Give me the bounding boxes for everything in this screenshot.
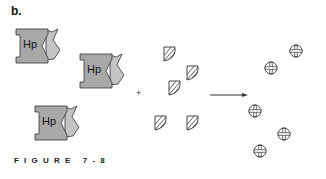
figure-panel: b. HpHpHp + FIGURE 7-8 [0,0,326,179]
product-icon [253,144,267,158]
product-icon [289,44,303,58]
product-icon [264,61,278,75]
enzyme-label: Hp [23,38,37,50]
enzyme-label: Hp [42,115,56,127]
enzyme-hp-icon: Hp [78,51,128,91]
substrate-icon [167,80,181,96]
substrate-icon [185,65,199,81]
product-icon [248,104,262,118]
substrate-icon [153,115,167,131]
substrate-icon [162,46,176,62]
substrate-icon [185,115,199,131]
enzyme-label: Hp [87,63,101,75]
enzyme-hp-icon: Hp [14,26,64,66]
product-icon [277,127,291,141]
plus-sign: + [136,88,141,98]
enzyme-hp-icon: Hp [33,103,83,143]
figure-caption: FIGURE 7-8 [14,156,110,165]
panel-label: b. [11,4,22,18]
